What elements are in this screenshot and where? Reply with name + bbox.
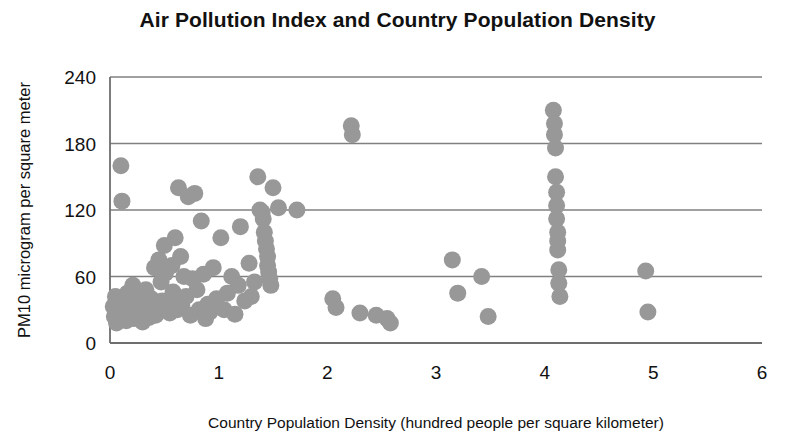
x-tick-label-6: 6 — [757, 362, 768, 383]
data-point — [230, 277, 247, 294]
data-point — [549, 241, 566, 258]
x-axis-title: Country Population Density (hundred peop… — [208, 414, 664, 431]
data-point — [249, 168, 266, 185]
data-point — [112, 157, 129, 174]
data-point — [186, 185, 203, 202]
y-axis-tick-labels: 060120180240 — [64, 67, 96, 354]
y-tick-label-0: 0 — [85, 333, 96, 354]
data-point — [480, 308, 497, 325]
data-point — [547, 139, 564, 156]
data-point — [265, 179, 282, 196]
y-tick-label-60: 60 — [75, 267, 96, 288]
data-point — [449, 285, 466, 302]
x-tick-label-1: 1 — [213, 362, 224, 383]
data-point — [212, 229, 229, 246]
data-point — [382, 315, 399, 332]
data-point — [243, 288, 260, 305]
data-point — [551, 288, 568, 305]
data-point — [193, 213, 210, 230]
x-tick-label-0: 0 — [105, 362, 116, 383]
data-point — [241, 255, 258, 272]
x-tick-label-4: 4 — [539, 362, 550, 383]
scatter-chart: Air Pollution Index and Country Populati… — [0, 0, 795, 447]
data-point — [188, 281, 205, 298]
data-point — [344, 126, 361, 143]
data-point — [547, 168, 564, 185]
y-tick-label-120: 120 — [64, 200, 96, 221]
data-point — [232, 218, 249, 235]
data-point — [444, 251, 461, 268]
gridlines — [110, 77, 762, 277]
data-point — [328, 299, 345, 316]
data-point — [262, 277, 279, 294]
x-tick-label-3: 3 — [431, 362, 442, 383]
data-point — [270, 199, 287, 216]
data-points — [105, 102, 657, 332]
data-point — [639, 303, 656, 320]
x-tick-label-2: 2 — [322, 362, 333, 383]
x-axis-tick-labels: 0123456 — [105, 362, 768, 383]
data-point — [637, 262, 654, 279]
y-axis-title: PM10 microgram per square meter — [15, 82, 33, 338]
y-tick-label-180: 180 — [64, 134, 96, 155]
data-point — [351, 305, 368, 322]
y-tick-label-240: 240 — [64, 67, 96, 88]
data-point — [473, 268, 490, 285]
data-point — [113, 193, 130, 210]
plot-canvas: 0123456 060120180240 Country Population … — [0, 0, 795, 447]
data-point — [172, 248, 189, 265]
data-point — [167, 229, 184, 246]
data-point — [246, 274, 263, 291]
data-point — [288, 202, 305, 219]
x-tick-label-5: 5 — [648, 362, 659, 383]
data-point — [205, 259, 222, 276]
